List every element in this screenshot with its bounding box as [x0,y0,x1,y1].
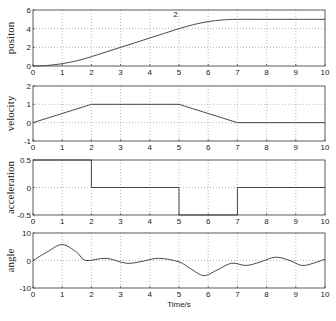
x-tick-label: 9 [294,290,299,299]
y-tick-label: 2 [27,82,32,91]
y-tick-label: -0.5 [17,211,31,220]
y-tick-label: 1 [27,100,32,109]
y-axis-label: positon [4,21,16,54]
x-tick-label: 7 [235,68,240,77]
subplot-acceleration: 012345678910-0.500.5acceleration [4,156,330,226]
y-tick-label: 0.5 [20,156,32,165]
x-tick-label: 9 [294,143,299,152]
x-tick-label: 10 [321,68,330,77]
x-tick-label: 1 [60,217,65,226]
x-tick-label: 0 [31,143,36,152]
x-tick-label: 0 [31,217,36,226]
y-tick-label: 2 [27,43,32,52]
x-tick-label: 0 [31,290,36,299]
x-tick-label: 9 [294,68,299,77]
x-tick-label: 3 [118,217,123,226]
x-tick-label: 2 [89,217,94,226]
x-tick-label: 2 [89,290,94,299]
y-tick-label: 0 [27,62,32,71]
x-tick-label: 6 [206,143,211,152]
y-tick-label: 0 [27,184,32,193]
x-tick-label: 5 [177,143,182,152]
subplot-velocity: 012345678910-1012velocity [4,82,330,152]
chart-figure: 0123456789100246positon2012345678910-101… [0,0,336,321]
x-tick-label: 8 [264,290,269,299]
series-line-acceleration [33,160,325,215]
x-tick-label: 3 [118,290,123,299]
y-axis-label: velocity [4,95,16,131]
x-tick-label: 8 [264,143,269,152]
x-tick-label: 8 [264,68,269,77]
x-tick-label: 7 [235,290,240,299]
x-tick-label: 5 [177,217,182,226]
x-tick-label: 6 [206,68,211,77]
y-tick-label: 4 [27,25,32,34]
x-tick-label: 2 [89,68,94,77]
y-axis-label: angle [4,248,16,272]
x-axis-label: Time/s [167,300,191,309]
x-tick-label: 7 [235,217,240,226]
x-tick-label: 5 [177,68,182,77]
x-tick-label: 4 [148,143,153,152]
x-tick-label: 3 [118,143,123,152]
annotation-label: 2 [173,10,178,19]
x-tick-label: 8 [264,217,269,226]
x-tick-label: 4 [148,68,153,77]
y-tick-label: -1 [24,137,32,146]
y-tick-label: 0 [27,257,32,266]
x-tick-label: 0 [31,68,36,77]
x-tick-label: 10 [321,290,330,299]
y-axis-label: acceleration [4,160,16,214]
x-tick-label: 5 [177,290,182,299]
subplot-positon: 0123456789100246positon2 [4,6,330,77]
x-tick-label: 1 [60,68,65,77]
x-tick-label: 10 [321,143,330,152]
x-tick-label: 4 [148,290,153,299]
x-tick-label: 2 [89,143,94,152]
x-tick-label: 1 [60,143,65,152]
subplot-angle: 012345678910-10010angleTime/s [4,229,330,309]
y-tick-label: 10 [22,229,31,238]
x-tick-label: 6 [206,290,211,299]
y-tick-label: 0 [27,119,32,128]
x-tick-label: 3 [118,68,123,77]
x-tick-label: 9 [294,217,299,226]
y-tick-label: -10 [19,284,31,293]
y-tick-label: 6 [27,6,32,15]
x-tick-label: 1 [60,290,65,299]
x-tick-label: 7 [235,143,240,152]
x-tick-label: 4 [148,217,153,226]
x-tick-label: 10 [321,217,330,226]
x-tick-label: 6 [206,217,211,226]
